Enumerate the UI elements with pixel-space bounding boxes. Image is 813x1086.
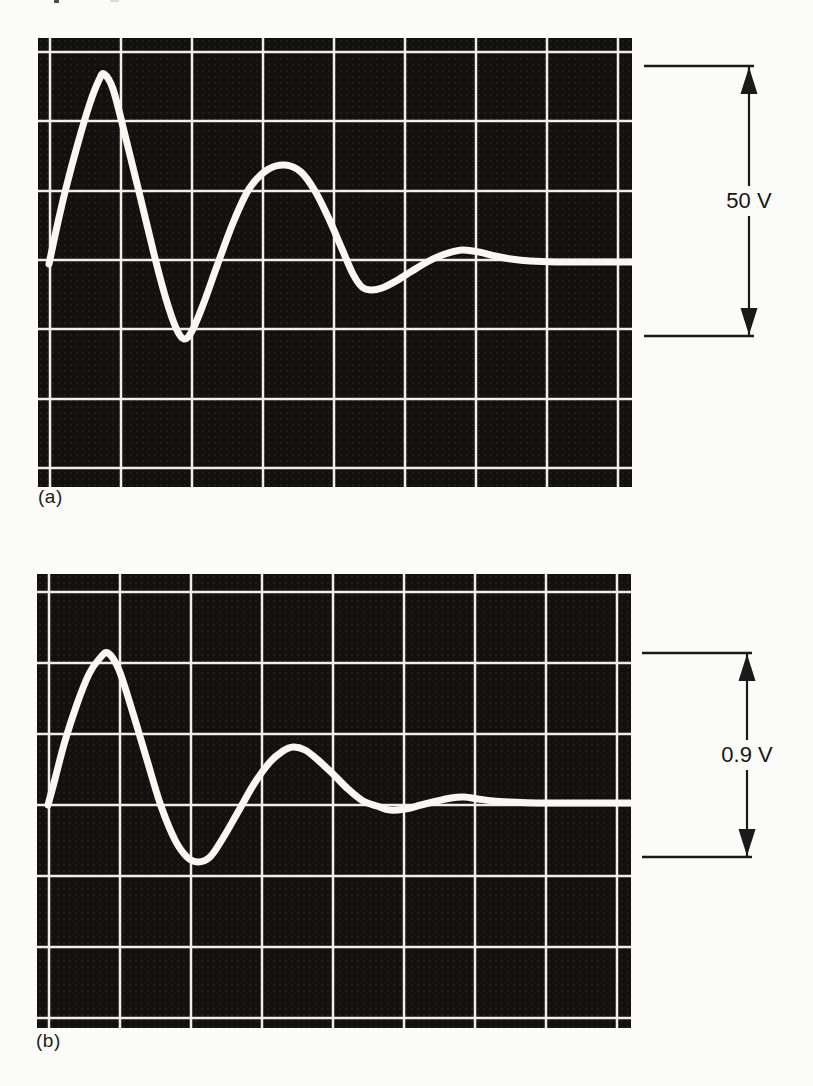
panel-label-a: (a) [38,486,63,508]
scan-artifact [110,0,119,2]
amplitude-value-b: 0.9 V [716,740,777,770]
amplitude-value-a: 50 V [721,186,776,216]
figure-page: 50 V (a) 0.9 V (b) [0,0,813,1086]
panel-label-b: (b) [36,1030,61,1052]
scan-artifact [54,0,59,3]
oscilloscope-trace-b [37,574,631,1028]
oscilloscope-screen-a [38,38,632,487]
oscilloscope-trace-a [38,38,632,487]
amplitude-annotation-b: 0.9 V [638,645,763,865]
amplitude-annotation-a: 50 V [640,58,765,344]
oscilloscope-screen-b [37,574,631,1028]
